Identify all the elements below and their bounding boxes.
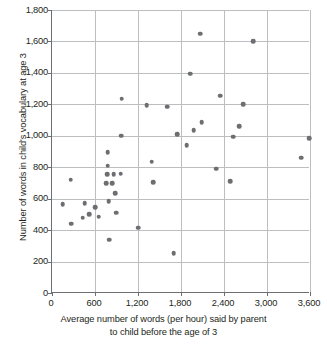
x-axis-tick-label: 0 <box>49 299 54 308</box>
scatter-point <box>60 202 65 207</box>
scatter-point <box>87 212 92 217</box>
scatter-point <box>93 205 98 210</box>
scatter-point <box>114 211 119 216</box>
x-axis-tick-mark <box>310 292 311 296</box>
gridline-vertical <box>267 10 268 292</box>
x-axis-tick-mark <box>267 292 268 296</box>
scatter-point <box>106 150 111 155</box>
x-axis-tick-mark <box>95 292 96 296</box>
y-axis-tick-mark <box>48 230 52 231</box>
x-axis-tick-label: 1,800 <box>169 299 191 308</box>
x-axis-tick-label: 3,600 <box>298 299 320 308</box>
x-axis-tick-label: 1,200 <box>126 299 148 308</box>
scatter-point <box>113 191 118 196</box>
scatter-point <box>119 133 124 138</box>
y-axis-tick-mark <box>48 136 52 137</box>
scatter-point <box>151 180 156 185</box>
scatter-chart-figure: Number of words in child's vocabulary at… <box>0 0 327 346</box>
scatter-point <box>111 172 116 177</box>
scatter-point <box>199 120 204 125</box>
x-axis-tick-mark <box>181 292 182 296</box>
plot-area <box>51 10 309 293</box>
x-axis-tick-label: 600 <box>87 299 102 308</box>
scatter-point <box>82 201 87 206</box>
scatter-point <box>184 143 189 148</box>
scatter-point <box>251 39 256 44</box>
y-axis-tick-mark <box>48 104 52 105</box>
x-axis-title-line: to child before the age of 3 <box>0 326 327 339</box>
y-axis-tick-mark <box>48 199 52 200</box>
scatter-point <box>188 71 193 76</box>
scatter-point <box>96 214 101 219</box>
x-axis-tick-mark <box>138 292 139 296</box>
y-axis-tick-mark <box>48 262 52 263</box>
scatter-point <box>105 163 110 168</box>
x-axis-title: Average number of words (per hour) said … <box>0 313 327 338</box>
scatter-point <box>192 128 197 133</box>
scatter-point <box>120 97 125 102</box>
scatter-point <box>136 225 141 230</box>
x-axis-tick-mark <box>52 292 53 296</box>
y-axis-tick-mark <box>48 73 52 74</box>
scatter-point <box>198 31 203 36</box>
y-axis-tick-mark <box>48 10 52 11</box>
scatter-point <box>119 171 124 176</box>
scatter-point <box>299 155 304 160</box>
x-axis-tick-label: 2,400 <box>212 299 234 308</box>
scatter-point <box>106 199 111 204</box>
scatter-point <box>81 215 86 220</box>
scatter-point <box>307 136 312 141</box>
gridline-vertical <box>95 10 96 292</box>
scatter-point <box>241 102 246 107</box>
gridline-vertical <box>138 10 139 292</box>
gridline-vertical <box>224 10 225 292</box>
scatter-point <box>175 132 180 137</box>
scatter-point <box>107 237 112 242</box>
scatter-point <box>144 103 149 108</box>
scatter-point <box>149 159 154 164</box>
scatter-point <box>68 178 73 183</box>
scatter-point <box>104 181 109 186</box>
x-axis-tick-mark <box>224 292 225 296</box>
scatter-point <box>110 181 115 186</box>
scatter-point <box>172 251 177 256</box>
scatter-point <box>214 166 219 171</box>
scatter-point <box>105 172 110 177</box>
scatter-point <box>218 93 223 98</box>
x-axis-title-line: Average number of words (per hour) said … <box>0 313 327 326</box>
y-axis-tick-mark <box>48 41 52 42</box>
x-axis-tick-label: 3,000 <box>255 299 277 308</box>
scatter-point <box>237 124 242 129</box>
scatter-point <box>228 179 233 184</box>
scatter-point <box>69 222 74 227</box>
gridline-vertical <box>310 10 311 292</box>
scatter-point <box>231 134 236 139</box>
scatter-point <box>165 104 170 109</box>
y-axis-tick-mark <box>48 167 52 168</box>
gridline-vertical <box>181 10 182 292</box>
